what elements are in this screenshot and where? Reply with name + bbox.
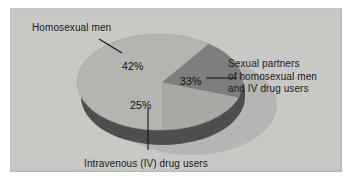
pie-value-label-sexual-partners: 33%: [180, 75, 202, 87]
pie-label-sexual-partners-line-1: Sexual partners: [228, 58, 317, 71]
pie-chart-figure: 42% 33% 25% Homosexual men Sexual partne…: [0, 0, 352, 183]
pie-value-label-iv-drug-users: 25%: [130, 99, 152, 111]
pie-label-homosexual-men: Homosexual men: [32, 22, 111, 35]
pie-label-iv-drug-users: Intravenous (IV) drug users: [84, 158, 208, 171]
figure-panel: 42% 33% 25% Homosexual men Sexual partne…: [10, 8, 341, 171]
pie-value-label-homosexual-men: 42%: [122, 60, 144, 72]
pie-label-sexual-partners-line-3: and IV drug users: [228, 83, 317, 96]
pie-label-sexual-partners-line-2: of homosexual men: [228, 71, 317, 84]
pie-label-sexual-partners: Sexual partners of homosexual men and IV…: [228, 58, 317, 96]
pie-chart-graphic: 42% 33% 25% Homosexual men Sexual partne…: [10, 8, 341, 171]
